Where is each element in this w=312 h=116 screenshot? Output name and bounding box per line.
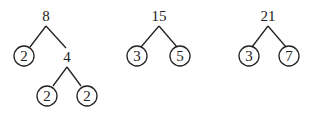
branch-line [159,26,177,47]
prime-node: 2 [20,48,28,64]
branch-line [141,26,159,47]
branch-line [30,26,46,47]
prime-node: 3 [133,48,141,64]
factor-tree-21: 21 3 7 [239,8,299,66]
composite-node: 4 [63,49,71,65]
prime-node: 5 [176,48,184,64]
factor-tree-8: 8 2 4 2 2 [14,8,97,106]
branch-line [53,67,67,86]
branch-line [252,26,268,47]
root-node: 8 [42,8,50,24]
factor-trees-diagram: 8 2 4 2 2 15 3 5 21 3 7 [0,0,312,116]
root-node: 15 [152,8,167,24]
prime-node: 3 [245,48,253,64]
root-node: 21 [261,8,276,24]
prime-node: 2 [43,88,51,104]
prime-node: 2 [83,88,91,104]
prime-node: 7 [285,48,293,64]
branch-line [268,26,286,47]
branch-line [67,67,81,86]
branch-line [46,26,66,48]
factor-tree-15: 15 3 5 [127,8,190,66]
